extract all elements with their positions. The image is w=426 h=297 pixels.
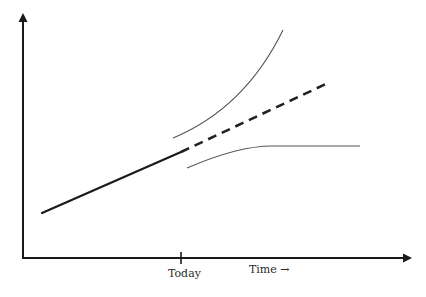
projection-dashed-line	[181, 83, 328, 152]
today-label: Today	[168, 267, 201, 280]
time-axis-label: Time →	[249, 263, 290, 276]
upper-bound-curve	[173, 30, 283, 138]
diagram-canvas	[0, 0, 426, 297]
x-axis-arrow-icon	[403, 254, 412, 263]
historical-line	[42, 152, 181, 213]
lower-bound-curve	[187, 146, 360, 168]
y-axis-arrow-icon	[19, 13, 28, 22]
